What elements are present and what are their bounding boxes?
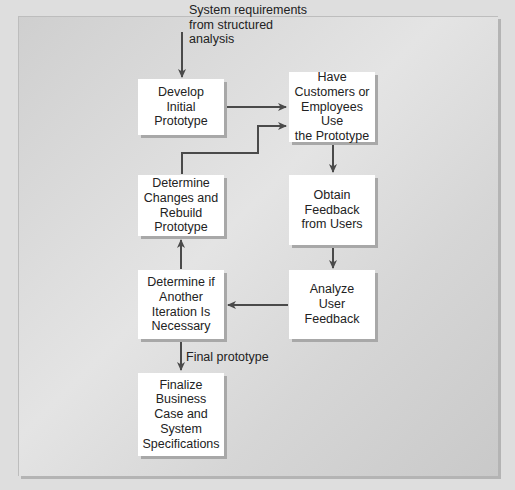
node-finalize-business-case: Finalize Business Case and System Specif… xyxy=(138,373,224,456)
node-obtain-feedback: Obtain Feedback from Users xyxy=(289,175,375,245)
connector-layer xyxy=(0,0,515,490)
node-have-customers-use-prototype: Have Customers or Employees Use the Prot… xyxy=(289,72,375,142)
node-analyze-user-feedback: Analyze User Feedback xyxy=(289,270,375,339)
final-prototype-label: Final prototype xyxy=(186,350,269,365)
node-develop-initial-prototype: Develop Initial Prototype xyxy=(138,79,224,135)
node-determine-changes-rebuild: Determine Changes and Rebuild Prototype xyxy=(138,175,224,236)
node-determine-another-iteration: Determine if Another Iteration Is Necess… xyxy=(138,270,224,339)
input-label: System requirements from structured anal… xyxy=(189,3,307,47)
